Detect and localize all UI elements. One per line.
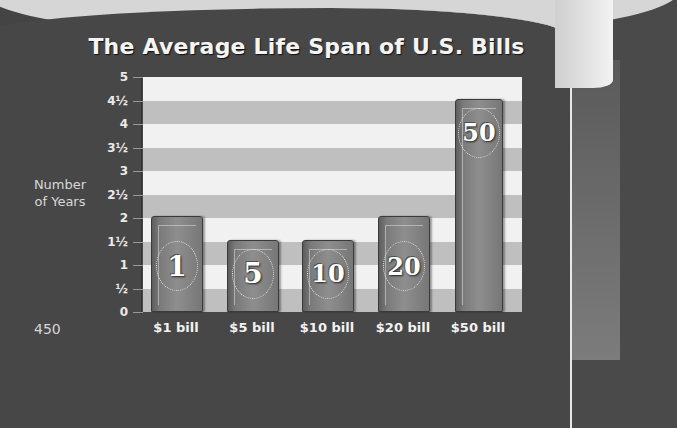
y-tick-mark xyxy=(133,289,143,290)
y-tick-mark xyxy=(133,312,143,313)
y-tick-label: 4 xyxy=(28,117,128,131)
x-tick-label: $10 bill xyxy=(287,320,367,335)
page-number: 450 xyxy=(34,321,61,337)
y-tick-mark xyxy=(133,242,143,243)
bar-50: 50 xyxy=(455,99,503,313)
y-tick-mark xyxy=(133,148,143,149)
x-tick-label: $20 bill xyxy=(363,320,443,335)
bill-denomination-badge: 5 xyxy=(232,249,274,299)
x-tick-label: $1 bill xyxy=(136,320,216,335)
y-tick-mark xyxy=(133,265,143,266)
y-axis-line xyxy=(141,77,142,314)
bar-5: 5 xyxy=(227,240,279,313)
y-tick-mark xyxy=(133,195,143,196)
y-tick-mark xyxy=(133,101,143,102)
x-tick-label: $50 bill xyxy=(438,320,518,335)
x-tick-label: $5 bill xyxy=(212,320,292,335)
y-tick-label: 5 xyxy=(28,70,128,84)
bill-denomination-badge: 50 xyxy=(458,108,500,158)
y-tick-label: ½ xyxy=(28,282,128,296)
y-tick-label: 1 xyxy=(28,258,128,272)
y-tick-label: 3 xyxy=(28,164,128,178)
bar-20: 20 xyxy=(378,216,430,312)
y-tick-label: 4½ xyxy=(28,94,128,108)
y-tick-mark xyxy=(133,124,143,125)
y-tick-mark xyxy=(133,171,143,172)
bill-denomination-badge: 20 xyxy=(383,241,425,291)
y-tick-mark xyxy=(133,218,143,219)
chart-title: The Average Life Span of U.S. Bills xyxy=(0,34,613,59)
y-tick-label: 0 xyxy=(28,305,128,319)
bill-denomination-badge: 10 xyxy=(307,249,349,299)
bill-denomination-badge: 1 xyxy=(156,241,198,291)
y-tick-label: 2 xyxy=(28,211,128,225)
y-tick-mark xyxy=(133,77,143,78)
y-tick-label: 2½ xyxy=(28,188,128,202)
bar-1: 1 xyxy=(151,216,203,312)
bar-10: 10 xyxy=(302,240,354,313)
y-tick-label: 3½ xyxy=(28,141,128,155)
y-tick-label: 1½ xyxy=(28,235,128,249)
